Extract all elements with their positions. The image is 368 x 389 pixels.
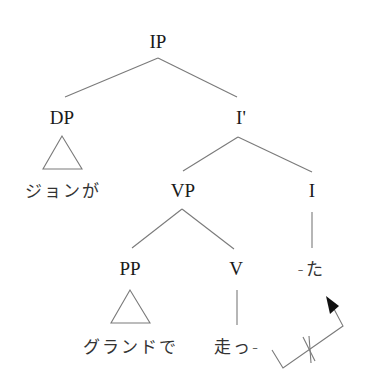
node-i-bar: I' xyxy=(236,107,246,129)
arrowhead-icon xyxy=(326,296,339,314)
node-pp: PP xyxy=(119,258,140,280)
node-dp-text: ジョンが xyxy=(25,180,101,202)
node-v-text: 走っ- xyxy=(214,336,260,358)
edge-ibar-i xyxy=(238,137,312,172)
edge-vp-v xyxy=(182,209,234,249)
edge-vp-pp xyxy=(132,209,182,248)
node-ip: IP xyxy=(150,31,167,53)
node-v: V xyxy=(229,258,243,280)
node-i: I xyxy=(309,180,315,202)
movement-arrow-path xyxy=(272,309,343,368)
dp-triangle xyxy=(43,136,82,169)
edge-ibar-vp xyxy=(183,137,238,171)
edge-ip-dp xyxy=(65,58,158,97)
edge-ip-ibar xyxy=(158,58,237,97)
node-i-text: -た xyxy=(297,258,324,280)
node-vp: VP xyxy=(171,180,195,202)
node-dp: DP xyxy=(50,107,74,129)
pp-triangle xyxy=(111,290,150,323)
node-pp-text: グランドで xyxy=(83,336,178,358)
